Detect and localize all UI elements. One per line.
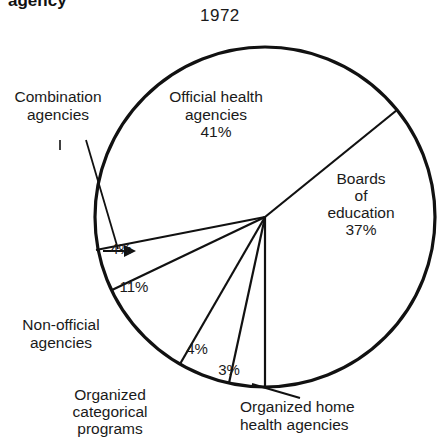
pie-chart-figure: agency 1972 Official health agencies 41%	[0, 0, 442, 448]
slice-value-combination: 4%	[104, 240, 138, 257]
slice-label-boards-of-education: Boards of education 37%	[318, 170, 404, 238]
slice-label-organized-categorical-programs: Organized categorical programs	[58, 386, 162, 437]
slice-label-homehealth-line1: Organized home	[240, 398, 355, 415]
slice-label-homehealth-line2: health agencies	[240, 416, 349, 433]
slice-label-official-health-agencies: Official health agencies 41%	[156, 88, 276, 141]
slice-label-nonofficial-line1: Non-official	[22, 316, 99, 333]
slice-value-boards: 37%	[318, 221, 404, 238]
slice-label-combination-line1: Combination	[14, 88, 101, 105]
slice-value-home-health: 3%	[212, 361, 246, 378]
slice-label-nonofficial-line2: agencies	[30, 334, 92, 351]
slice-label-organized-home-health-agencies: Organized home health agencies	[240, 398, 420, 433]
slice-value-official: 41%	[156, 123, 276, 141]
slice-value-non-official: 11%	[114, 278, 154, 295]
slice-label-boards-line2: of	[355, 187, 368, 204]
slice-label-boards-line1: Boards	[336, 170, 385, 187]
slice-label-official-line1: Official health	[169, 88, 263, 105]
slice-label-combination-line2: agencies	[27, 106, 89, 123]
slice-label-categorical-line2: categorical	[73, 403, 148, 420]
slice-label-official-line2: agencies	[185, 106, 247, 123]
slice-label-categorical-line1: Organized	[74, 386, 146, 403]
slice-value-categorical: 4%	[180, 340, 214, 357]
slice-label-boards-line3: education	[327, 204, 394, 221]
slice-label-combination-agencies: Combination agencies	[6, 88, 110, 123]
slice-label-categorical-line3: programs	[77, 420, 142, 437]
slice-label-non-official-agencies: Non-official agencies	[2, 316, 120, 351]
